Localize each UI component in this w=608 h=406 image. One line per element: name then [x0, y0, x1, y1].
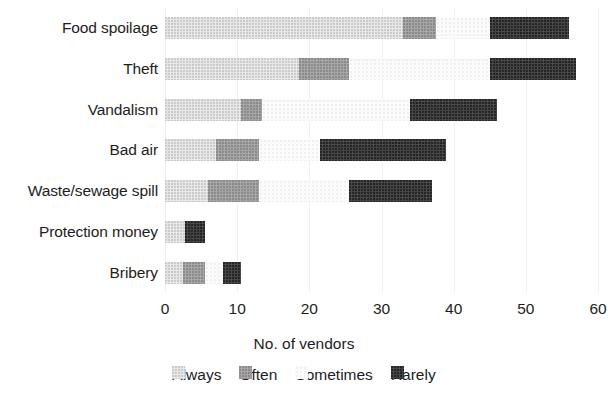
- bar-track: [165, 180, 598, 202]
- bar-segment-always: [165, 180, 208, 202]
- bar-segment-sometimes: [205, 262, 223, 284]
- horizontal-stacked-bar-chart: Food spoilageTheftVandalismBad airWaste/…: [0, 0, 608, 406]
- bar-track: [165, 99, 598, 121]
- category-label: Theft: [123, 60, 158, 78]
- bar-segment-always: [165, 262, 183, 284]
- bar-row: Bad air: [165, 130, 598, 171]
- bar-segment-sometimes: [436, 17, 490, 39]
- bar-segment-often: [299, 58, 350, 80]
- bar-segment-often: [216, 139, 259, 161]
- x-tick-label: 20: [301, 300, 318, 318]
- legend-swatch-icon: [172, 366, 185, 379]
- bar-segment-rarely: [490, 17, 569, 39]
- x-tick-label: 50: [517, 300, 534, 318]
- legend-item-often[interactable]: Often: [239, 366, 277, 384]
- bar-row: Vandalism: [165, 89, 598, 130]
- category-label: Food spoilage: [62, 19, 158, 37]
- legend-item-always[interactable]: Always: [172, 366, 221, 384]
- bar-segment-always: [165, 17, 403, 39]
- legend-swatch-icon: [239, 366, 252, 379]
- bar-track: [165, 221, 598, 243]
- bar-segment-always: [165, 139, 216, 161]
- x-tick-label: 30: [373, 300, 390, 318]
- category-label: Bribery: [110, 264, 158, 282]
- bar-segment-sometimes: [259, 139, 320, 161]
- bar-row: Waste/sewage spill: [165, 171, 598, 212]
- bar-row: Theft: [165, 49, 598, 90]
- x-tick-label: 0: [161, 300, 170, 318]
- bar-segment-always: [165, 99, 241, 121]
- bar-segment-always: [165, 221, 185, 243]
- bar-segment-often: [403, 17, 435, 39]
- bar-segment-sometimes: [262, 99, 410, 121]
- category-label: Waste/sewage spill: [28, 182, 158, 200]
- x-tick-label: 60: [589, 300, 606, 318]
- x-tick-label: 10: [229, 300, 246, 318]
- bar-segment-often: [241, 99, 263, 121]
- category-label: Bad air: [110, 141, 158, 159]
- bar-segment-sometimes: [349, 58, 490, 80]
- bar-segment-rarely: [490, 58, 577, 80]
- legend-item-rarely[interactable]: Rarely: [391, 366, 436, 384]
- bar-row: Protection money: [165, 212, 598, 253]
- bar-segment-often: [208, 180, 259, 202]
- grid-line: [598, 8, 599, 293]
- legend-swatch-icon: [295, 366, 308, 379]
- bar-segment-rarely: [223, 262, 241, 284]
- bar-track: [165, 262, 598, 284]
- bar-segment-rarely: [410, 99, 497, 121]
- bar-track: [165, 58, 598, 80]
- category-label: Protection money: [39, 223, 158, 241]
- bar-segment-always: [165, 58, 299, 80]
- bar-track: [165, 139, 598, 161]
- bar-row: Food spoilage: [165, 8, 598, 49]
- x-tick-label: 40: [445, 300, 462, 318]
- plot-area: Food spoilageTheftVandalismBad airWaste/…: [165, 8, 598, 293]
- bar-segment-sometimes: [259, 180, 349, 202]
- bar-segment-rarely: [349, 180, 432, 202]
- bar-segment-rarely: [320, 139, 446, 161]
- bar-row: Bribery: [165, 252, 598, 293]
- x-axis-title: No. of vendors: [0, 335, 608, 353]
- chart-legend: AlwaysOftenSometimesRarely: [0, 366, 608, 384]
- legend-swatch-icon: [391, 366, 404, 379]
- bar-segment-rarely: [185, 221, 204, 243]
- bar-segment-often: [183, 262, 205, 284]
- legend-item-sometimes[interactable]: Sometimes: [295, 366, 373, 384]
- category-label: Vandalism: [88, 101, 158, 119]
- bar-track: [165, 17, 598, 39]
- x-axis: 0102030405060: [165, 300, 598, 320]
